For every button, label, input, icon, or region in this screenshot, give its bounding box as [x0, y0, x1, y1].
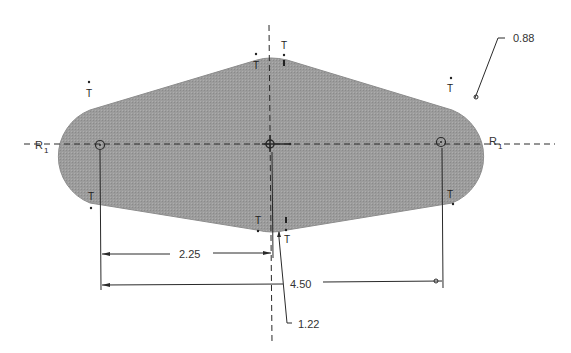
dimension-2-25[interactable]: 2.25: [102, 248, 271, 260]
svg-text:1: 1: [498, 142, 503, 151]
tangent-label-top-center-right: T: [281, 40, 287, 51]
equal-radius-constraint-left: R 1: [35, 139, 49, 155]
tangent-label-top-left: T: [86, 88, 92, 99]
svg-text:1: 1: [44, 146, 49, 155]
dimension-0-88[interactable]: 0.88: [474, 32, 534, 99]
tangent-label-bottom-center-left: T: [255, 215, 261, 226]
tangent-label-bottom-center-right: T: [284, 234, 290, 245]
sketch-canvas[interactable]: T T T T T T T T R 1 R 1 2.25: [0, 0, 571, 353]
dimension-1-22-label[interactable]: 1.22: [298, 318, 319, 330]
tangent-label-top-center-left: T: [253, 60, 259, 71]
tangent-label-bottom-right: T: [447, 189, 453, 200]
dimension-4-50[interactable]: 4.50: [102, 278, 442, 290]
tangent-label-top-right: T: [447, 83, 453, 94]
dimension-0-88-label[interactable]: 0.88: [513, 32, 534, 44]
dimension-4-50-label[interactable]: 4.50: [290, 278, 311, 290]
dimension-2-25-label[interactable]: 2.25: [179, 248, 200, 260]
svg-text:R: R: [35, 139, 43, 151]
equal-radius-constraint-right: R 1: [489, 135, 503, 151]
tangent-label-bottom-left: T: [88, 191, 94, 202]
svg-text:R: R: [489, 135, 497, 147]
